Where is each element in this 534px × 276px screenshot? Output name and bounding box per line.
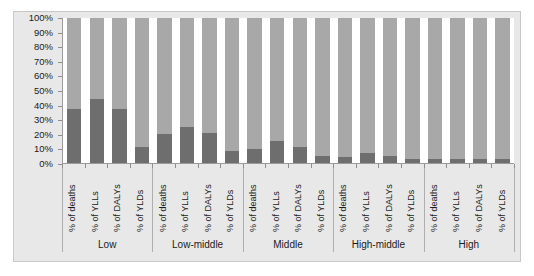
bar-segment-light bbox=[247, 18, 261, 149]
y-axis: 0%10%20%30%40%50%60%70%80%90%100% bbox=[14, 18, 58, 170]
bar-slot bbox=[311, 18, 334, 163]
y-tick-label: 10% bbox=[34, 145, 53, 155]
stacked-bar bbox=[473, 18, 487, 163]
chart-figure: 0%10%20%30%40%50%60%70%80%90%100% % of d… bbox=[13, 11, 521, 262]
stacked-bar bbox=[225, 18, 239, 163]
bar-segment-light bbox=[383, 18, 397, 156]
bar-segment-dark bbox=[338, 157, 352, 163]
bar-segment-light bbox=[67, 18, 81, 109]
bar-segment-dark bbox=[225, 151, 239, 163]
bar-slot bbox=[153, 18, 176, 163]
bar-segment-dark bbox=[202, 133, 216, 163]
stacked-bar bbox=[135, 18, 149, 163]
bar-slot bbox=[198, 18, 221, 163]
bar-segment-light bbox=[428, 18, 442, 159]
bar-segment-dark bbox=[428, 159, 442, 163]
bar-segment-dark bbox=[112, 109, 126, 163]
stacked-bar bbox=[293, 18, 307, 163]
bar-segment-dark bbox=[383, 156, 397, 163]
bar-segment-dark bbox=[315, 156, 329, 163]
bar-segment-light bbox=[315, 18, 329, 156]
group-label: Middle bbox=[243, 238, 333, 254]
stacked-bar bbox=[180, 18, 194, 163]
bar-segment-dark bbox=[180, 127, 194, 163]
stacked-bar bbox=[270, 18, 284, 163]
bar-segment-light bbox=[405, 18, 419, 159]
bar-slot bbox=[446, 18, 469, 163]
bar-segment-dark bbox=[360, 153, 374, 163]
group-separator bbox=[514, 168, 515, 252]
bar-slot bbox=[334, 18, 357, 163]
bar-segment-dark bbox=[135, 147, 149, 163]
bar-segment-light bbox=[293, 18, 307, 147]
bar-segment-light bbox=[202, 18, 216, 133]
bar-segment-light bbox=[450, 18, 464, 159]
bar-segment-light bbox=[225, 18, 239, 151]
x-axis-group-labels: LowLow-middleMiddleHigh-middleHigh bbox=[62, 238, 514, 254]
bar-track bbox=[63, 18, 514, 163]
bar-slot bbox=[243, 18, 266, 163]
stacked-bar bbox=[495, 18, 509, 163]
stacked-bar bbox=[90, 18, 104, 163]
bar-segment-dark bbox=[405, 159, 419, 163]
bar-segment-light bbox=[495, 18, 509, 159]
bar-slot bbox=[401, 18, 424, 163]
bar-slot bbox=[221, 18, 244, 163]
y-tick-label: 30% bbox=[34, 115, 53, 125]
bar-segment-light bbox=[90, 18, 104, 99]
stacked-bar bbox=[428, 18, 442, 163]
stacked-bar bbox=[360, 18, 374, 163]
bar-segment-light bbox=[135, 18, 149, 147]
bar-slot bbox=[108, 18, 131, 163]
group-label: High-middle bbox=[333, 238, 423, 254]
bar-segment-light bbox=[360, 18, 374, 153]
bar-segment-dark bbox=[450, 159, 464, 163]
stacked-bar bbox=[338, 18, 352, 163]
stacked-bar bbox=[450, 18, 464, 163]
y-tick-label: 40% bbox=[34, 101, 53, 111]
group-label: High bbox=[424, 238, 514, 254]
bar-slot bbox=[131, 18, 154, 163]
bar-segment-dark bbox=[90, 99, 104, 163]
y-tick-label: 80% bbox=[34, 42, 53, 52]
bar-segment-dark bbox=[157, 134, 171, 163]
bar-segment-dark bbox=[495, 159, 509, 163]
bar-slot bbox=[63, 18, 86, 163]
bar-slot bbox=[288, 18, 311, 163]
bar-segment-light bbox=[338, 18, 352, 157]
bar-slot bbox=[424, 18, 447, 163]
group-label: Low-middle bbox=[152, 238, 242, 254]
y-tick-label: 0% bbox=[39, 159, 53, 169]
bar-slot bbox=[356, 18, 379, 163]
bar-slot bbox=[176, 18, 199, 163]
y-tick-label: 70% bbox=[34, 57, 53, 67]
y-tick-label: 90% bbox=[34, 28, 53, 38]
bar-slot bbox=[469, 18, 492, 163]
bar-slot bbox=[491, 18, 514, 163]
bar-segment-dark bbox=[270, 141, 284, 163]
bar-segment-light bbox=[270, 18, 284, 141]
bar-slot bbox=[266, 18, 289, 163]
stacked-bar bbox=[405, 18, 419, 163]
bar-segment-dark bbox=[67, 109, 81, 163]
bar-slot bbox=[379, 18, 402, 163]
y-tick-label: 20% bbox=[34, 130, 53, 140]
stacked-bar bbox=[247, 18, 261, 163]
stacked-bar bbox=[157, 18, 171, 163]
bar-segment-light bbox=[157, 18, 171, 134]
plot-area bbox=[62, 18, 514, 164]
stacked-bar bbox=[112, 18, 126, 163]
y-tick-label: 100% bbox=[29, 13, 53, 23]
stacked-bar bbox=[202, 18, 216, 163]
bar-segment-dark bbox=[473, 159, 487, 163]
bar-segment-dark bbox=[293, 147, 307, 163]
y-tick-label: 50% bbox=[34, 86, 53, 96]
group-label: Low bbox=[62, 238, 152, 254]
bar-slot bbox=[86, 18, 109, 163]
bar-segment-light bbox=[180, 18, 194, 127]
stacked-bar bbox=[67, 18, 81, 163]
bar-segment-dark bbox=[247, 149, 261, 164]
y-tick-label: 60% bbox=[34, 72, 53, 82]
stacked-bar bbox=[315, 18, 329, 163]
bar-segment-light bbox=[112, 18, 126, 109]
